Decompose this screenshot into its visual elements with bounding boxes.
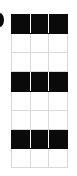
table-row: [12, 129, 68, 148]
figure-canvas: [0, 0, 77, 176]
table-row: [12, 91, 68, 110]
grid-cell[interactable]: [12, 34, 31, 53]
grid-cell[interactable]: [49, 53, 68, 72]
grid-cell[interactable]: [12, 72, 31, 91]
grid-cell[interactable]: [12, 91, 31, 110]
table-row: [12, 72, 68, 91]
grid-cell[interactable]: [49, 72, 68, 91]
table-row: [12, 15, 68, 34]
grid-cell[interactable]: [12, 129, 31, 148]
grid-cell[interactable]: [30, 15, 49, 34]
grid-cell[interactable]: [30, 110, 49, 129]
grid-cell[interactable]: [30, 91, 49, 110]
table-row: [12, 34, 68, 53]
grid-cell[interactable]: [30, 53, 49, 72]
table-row: [12, 148, 68, 167]
grid-body: [12, 15, 68, 168]
grid-cell[interactable]: [49, 110, 68, 129]
grid-cell[interactable]: [12, 15, 31, 34]
grid-cell[interactable]: [49, 148, 68, 167]
grid-cell[interactable]: [12, 53, 31, 72]
table-row: [12, 53, 68, 72]
swatch-grid: [11, 14, 68, 168]
grid-table: [11, 14, 68, 168]
grid-cell[interactable]: [30, 34, 49, 53]
grid-cell[interactable]: [30, 72, 49, 91]
grid-cell[interactable]: [30, 148, 49, 167]
grid-cell[interactable]: [49, 34, 68, 53]
grid-cell[interactable]: [49, 15, 68, 34]
grid-cell[interactable]: [49, 91, 68, 110]
grid-cell[interactable]: [30, 129, 49, 148]
grid-cell[interactable]: [49, 129, 68, 148]
grid-cell[interactable]: [12, 148, 31, 167]
table-row: [12, 110, 68, 129]
grid-cell[interactable]: [12, 110, 31, 129]
clipped-glyph-fragment-icon: [0, 13, 4, 27]
